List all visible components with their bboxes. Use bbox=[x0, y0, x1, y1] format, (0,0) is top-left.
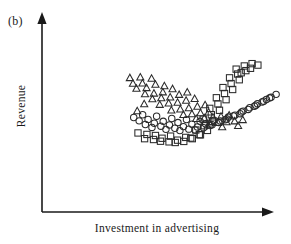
data-point-circle bbox=[273, 91, 279, 97]
y-axis-label: Revenue bbox=[15, 61, 27, 151]
data-point-circle bbox=[142, 121, 148, 127]
data-point-square bbox=[241, 63, 247, 69]
data-point-circle bbox=[153, 113, 159, 119]
data-point-square bbox=[172, 139, 178, 145]
x-axis-arrowhead bbox=[262, 207, 274, 216]
data-point-square bbox=[150, 136, 156, 142]
data-point-circle bbox=[186, 126, 192, 132]
data-point-triangle bbox=[137, 74, 144, 80]
data-point-triangle bbox=[126, 74, 133, 80]
data-point-square bbox=[243, 67, 249, 73]
data-point-square bbox=[223, 97, 229, 103]
data-point-triangle bbox=[177, 106, 184, 112]
data-point-triangle bbox=[159, 88, 166, 94]
data-point-triangle bbox=[183, 97, 190, 103]
data-point-square bbox=[141, 136, 147, 142]
data-point-square bbox=[215, 101, 221, 107]
data-point-circle bbox=[139, 112, 145, 118]
data-point-circle bbox=[169, 115, 175, 121]
data-point-triangle bbox=[202, 101, 209, 107]
data-point-square bbox=[213, 95, 219, 101]
data-point-triangle bbox=[174, 99, 181, 105]
data-point-triangle bbox=[197, 109, 204, 115]
data-point-triangle bbox=[165, 100, 172, 106]
data-point-triangle bbox=[141, 100, 148, 106]
data-point-square bbox=[135, 130, 141, 136]
data-point-triangle bbox=[184, 89, 191, 95]
data-point-circle bbox=[163, 126, 169, 132]
data-point-square bbox=[220, 84, 226, 90]
data-point-square bbox=[216, 107, 222, 113]
data-point-triangle bbox=[191, 95, 198, 101]
y-axis-arrowhead bbox=[37, 12, 46, 24]
data-marker-layer bbox=[126, 60, 279, 145]
data-point-triangle bbox=[143, 84, 150, 90]
data-point-square bbox=[221, 90, 227, 96]
data-point-triangle bbox=[150, 90, 157, 96]
data-point-square bbox=[174, 137, 180, 143]
data-point-triangle bbox=[167, 93, 174, 99]
data-point-triangle bbox=[156, 101, 163, 107]
data-point-square bbox=[230, 86, 236, 92]
x-axis-label: Investment in advertising bbox=[42, 222, 272, 234]
data-point-triangle bbox=[148, 75, 155, 81]
data-point-circle bbox=[136, 118, 142, 124]
data-point-triangle bbox=[194, 103, 201, 109]
data-point-triangle bbox=[169, 85, 176, 91]
data-point-triangle bbox=[161, 82, 168, 88]
data-point-square bbox=[181, 138, 187, 144]
plot-canvas bbox=[0, 0, 291, 244]
data-point-triangle bbox=[185, 104, 192, 110]
data-point-square bbox=[144, 131, 150, 137]
scatter-plot-figure: (b) Investment in advertising Revenue bbox=[0, 0, 291, 244]
data-point-square bbox=[247, 65, 253, 71]
data-point-triangle bbox=[168, 107, 175, 113]
data-point-triangle bbox=[141, 90, 148, 96]
